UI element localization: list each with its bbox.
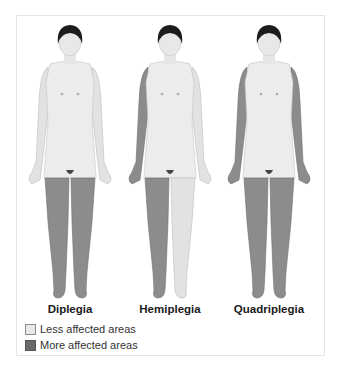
legend-item-less-affected: Less affected areas xyxy=(25,321,138,337)
figure-hemiplegia xyxy=(120,22,220,302)
diagram-frame: Diplegia Hemiplegia Qu xyxy=(16,15,325,356)
label-hemiplegia: Hemiplegia xyxy=(120,303,220,315)
figure-quadriplegia xyxy=(219,22,319,302)
legend-label-less: Less affected areas xyxy=(40,323,136,335)
label-quadriplegia: Quadriplegia xyxy=(219,303,319,315)
label-diplegia: Diplegia xyxy=(20,303,120,315)
body-quadriplegia-illustration xyxy=(219,22,319,302)
swatch-dark-icon xyxy=(25,340,36,351)
figure-diplegia xyxy=(20,22,120,302)
body-diplegia-illustration xyxy=(20,22,120,302)
legend: Less affected areas More affected areas xyxy=(25,321,138,353)
legend-label-more: More affected areas xyxy=(40,339,138,351)
body-hemiplegia-illustration xyxy=(120,22,220,302)
swatch-light-icon xyxy=(25,324,36,335)
legend-item-more-affected: More affected areas xyxy=(25,337,138,353)
